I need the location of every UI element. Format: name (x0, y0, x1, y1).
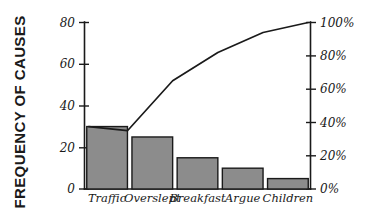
bar-breakfast (177, 158, 218, 189)
y2-tick-label-20: 20% (319, 149, 347, 163)
x-label-children: Children (263, 191, 314, 205)
bar-children (268, 179, 309, 189)
y-tick-label-60: 60 (60, 57, 76, 71)
x-label-breakfast: Breakfast (168, 191, 226, 205)
pareto-chart-canvas: FREQUENCY OF CAUSES 80 60 40 20 0 (0, 0, 380, 223)
y2-tick-label-80: 80% (320, 49, 347, 63)
bar-overslept (132, 137, 173, 189)
y-axis-title: FREQUENCY OF CAUSES (11, 15, 28, 208)
x-axis-category-labels: TrafficOversleptBreakfastArgueChildren (88, 191, 313, 205)
y2-tick-label-40: 40% (319, 116, 347, 130)
x-label-traffic: Traffic (88, 191, 127, 205)
bar-argue (222, 168, 263, 189)
y-tick-label-80: 80 (60, 16, 76, 30)
pareto-chart: FREQUENCY OF CAUSES 80 60 40 20 0 (0, 0, 380, 223)
y-tick-label-20: 20 (59, 141, 76, 155)
y2-tick-label-0: 0% (320, 182, 339, 196)
y-tick-label-40: 40 (59, 99, 76, 113)
bar-traffic (87, 127, 128, 189)
x-label-argue: Argue (224, 191, 261, 205)
y2-tick-label-100: 100% (320, 16, 354, 30)
y2-tick-label-60: 60% (320, 82, 347, 96)
y-tick-label-0: 0 (67, 182, 75, 196)
